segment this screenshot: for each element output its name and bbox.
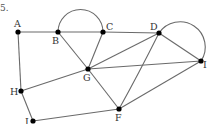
node-H	[18, 88, 23, 93]
label-B: B	[52, 35, 59, 46]
node-F	[116, 106, 121, 111]
edge-D-G	[88, 33, 159, 69]
edge-C-D	[103, 32, 159, 33]
edge-H-G	[21, 69, 88, 91]
label-C: C	[106, 21, 113, 32]
node-I-bottom	[30, 118, 35, 123]
node-B	[55, 29, 60, 34]
edge-F-I	[119, 61, 201, 109]
edge-I-F	[33, 109, 119, 121]
labels: A B C D I G H I F	[10, 18, 207, 124]
label-H: H	[10, 86, 18, 97]
edge-A-H	[18, 32, 21, 91]
edge-B-G	[58, 32, 88, 69]
arc-B-C	[58, 10, 103, 33]
label-I-bottom: I	[25, 116, 29, 124]
label-F: F	[115, 112, 122, 123]
label-I-right: I	[203, 59, 207, 70]
node-G	[85, 66, 90, 71]
edge-G-F	[88, 69, 119, 109]
label-D: D	[150, 21, 158, 32]
label-A: A	[13, 18, 21, 29]
graph-diagram: 5. A B C D I G	[0, 0, 208, 124]
label-G: G	[83, 72, 91, 83]
node-A	[15, 29, 20, 34]
edge-C-G	[88, 32, 103, 69]
arc-D-I	[159, 22, 205, 61]
figure-number: 5.	[0, 3, 9, 13]
edge-D-I	[159, 33, 201, 61]
node-C	[100, 29, 105, 34]
